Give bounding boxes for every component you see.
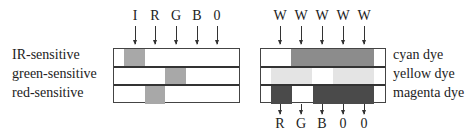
white-light-label: W <box>315 8 329 24</box>
output-label-0: 0 <box>357 116 371 132</box>
arrow-down-icon <box>217 26 218 44</box>
output-label-g: G <box>294 116 308 132</box>
sensitivity-band <box>145 86 165 104</box>
white-light-label: W <box>294 8 308 24</box>
arrow-down-icon <box>301 104 302 114</box>
arrow-down-icon <box>155 26 156 44</box>
arrow-down-icon <box>322 26 323 44</box>
arrow-down-icon <box>343 104 344 114</box>
arrow-down-icon <box>135 26 136 44</box>
layer-label-green: green-sensitive <box>12 66 97 82</box>
dye-band <box>271 86 292 104</box>
arrow-down-icon <box>364 104 365 114</box>
arrow-down-icon <box>301 26 302 44</box>
input-label-r: R <box>148 8 162 24</box>
layer-row-red <box>114 84 239 104</box>
arrow-down-icon <box>322 104 323 114</box>
input-label-i: I <box>128 8 142 24</box>
dye-label-magenta: magenta dye <box>393 85 464 101</box>
dye-layers-box <box>260 48 386 103</box>
layer-row-green <box>114 66 239 86</box>
output-label-b: B <box>315 116 329 132</box>
output-label-0: 0 <box>336 116 350 132</box>
input-label-g: G <box>169 8 183 24</box>
arrow-down-icon <box>280 26 281 44</box>
sensitivity-band <box>124 49 145 67</box>
white-light-label: W <box>357 8 371 24</box>
output-label-r: R <box>273 116 287 132</box>
layer-label-ir: IR-sensitive <box>12 47 80 63</box>
dye-row-magenta <box>261 84 385 104</box>
dye-band <box>313 86 374 104</box>
layer-label-red: red-sensitive <box>12 85 84 101</box>
dye-row-cyan <box>261 49 385 67</box>
arrow-down-icon <box>280 104 281 114</box>
input-label-b: B <box>190 8 204 24</box>
arrow-down-icon <box>176 26 177 44</box>
dye-row-yellow <box>261 66 385 86</box>
dye-label-cyan: cyan dye <box>393 47 443 63</box>
dye-band <box>291 49 374 67</box>
white-light-label: W <box>336 8 350 24</box>
arrow-down-icon <box>197 26 198 44</box>
arrow-down-icon <box>364 26 365 44</box>
arrow-down-icon <box>343 26 344 44</box>
white-light-label: W <box>273 8 287 24</box>
input-label-0: 0 <box>210 8 224 24</box>
film-layers-box <box>113 48 240 103</box>
layer-row-ir <box>114 49 239 67</box>
dye-label-yellow: yellow dye <box>393 66 455 82</box>
